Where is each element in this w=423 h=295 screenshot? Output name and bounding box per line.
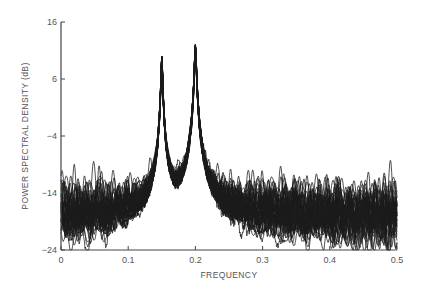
x-tick-label: 0.2 [189, 255, 202, 265]
psd-realization-traces [61, 45, 397, 250]
x-tick-label: 0.4 [324, 255, 337, 265]
x-axis-title: FREQUENCY [201, 270, 258, 280]
x-tick-label: 0.3 [256, 255, 269, 265]
x-tick-label: 0 [58, 255, 63, 265]
y-tick-label: −14 [42, 188, 57, 198]
psd-chart: 166−4−14−24 00.10.20.30.40.5 FREQUENCY P… [0, 0, 423, 295]
y-tick-label: 16 [47, 17, 57, 27]
x-tick-label: 0.5 [391, 255, 404, 265]
y-tick-label: −4 [47, 131, 57, 141]
x-axis-ticks: 00.10.20.30.40.5 [58, 246, 403, 265]
y-tick-label: 6 [52, 74, 57, 84]
y-axis-title: POWER SPECTRAL DENSITY (dB) [20, 62, 30, 209]
x-tick-label: 0.1 [122, 255, 135, 265]
y-tick-label: −24 [42, 245, 57, 255]
